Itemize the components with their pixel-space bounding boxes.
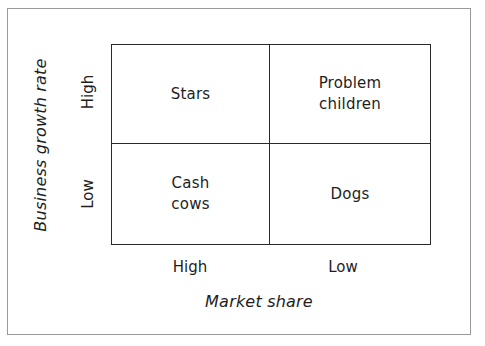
quadrant-label-line-2: children <box>319 94 382 115</box>
quadrant-label-line-1: Problem <box>319 73 382 94</box>
quadrant-cash-cows: Cash cows <box>112 144 269 244</box>
quadrant-label-line-1: Cash <box>171 173 209 194</box>
quadrant-label-line-2: cows <box>171 194 209 215</box>
x-tick-high: High <box>173 258 207 276</box>
y-tick-low: Low <box>79 179 97 209</box>
x-axis-label: Market share <box>205 292 313 311</box>
matrix-grid: Stars Problem children Cash cows Dogs <box>111 44 431 245</box>
quadrant-dogs: Dogs <box>270 144 430 244</box>
x-tick-low: Low <box>328 258 358 276</box>
y-tick-high: High <box>79 75 97 109</box>
quadrant-label: Stars <box>171 84 211 105</box>
quadrant-label: Dogs <box>331 184 370 205</box>
y-axis-label: Business growth rate <box>31 58 50 231</box>
quadrant-stars: Stars <box>112 45 269 143</box>
quadrant-problem-children: Problem children <box>270 45 430 143</box>
